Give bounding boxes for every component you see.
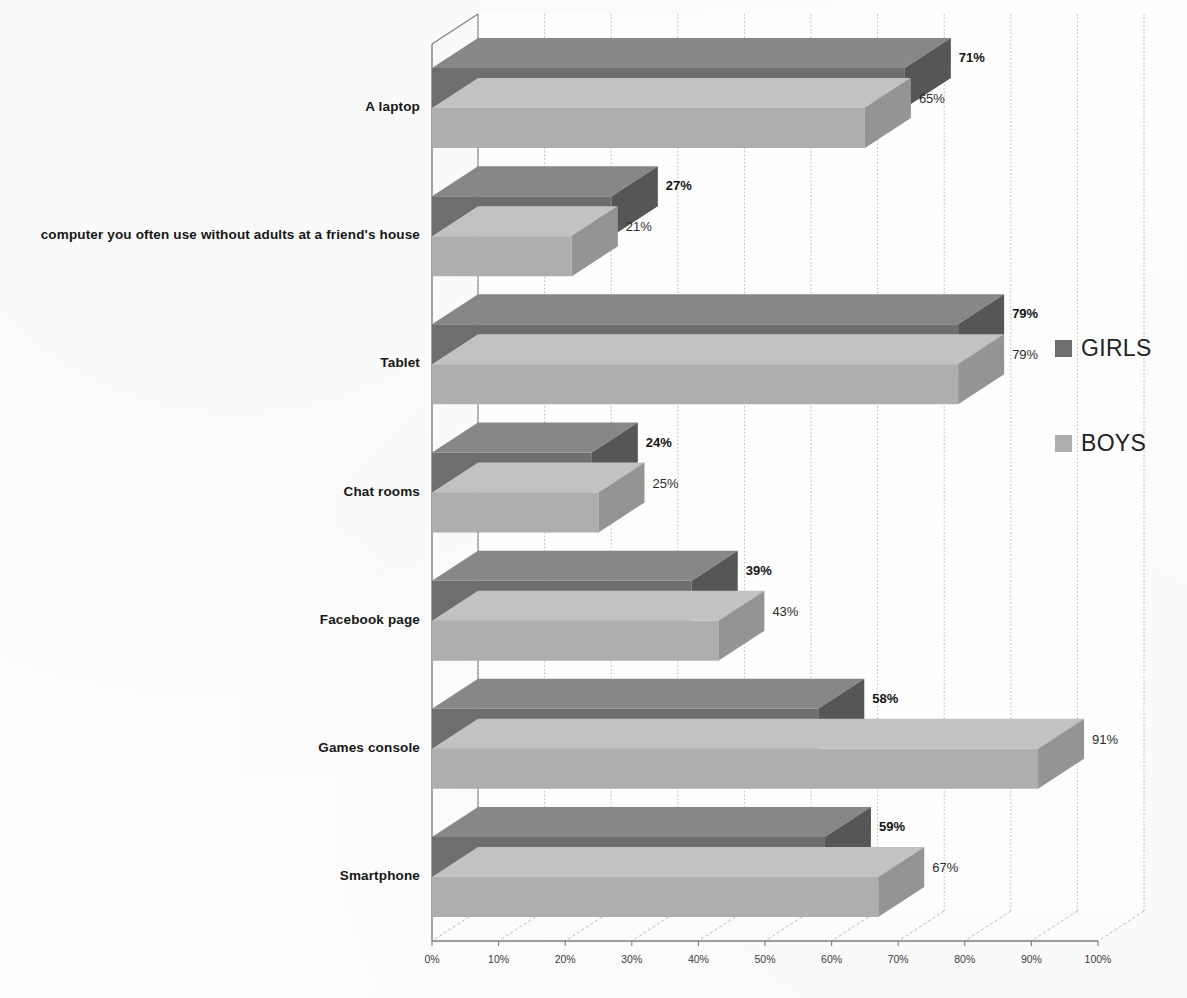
value-label-boys: 43% bbox=[772, 604, 798, 619]
value-label-girls: 79% bbox=[1012, 306, 1038, 321]
legend-label: BOYS bbox=[1081, 430, 1146, 457]
value-label-boys: 25% bbox=[653, 476, 679, 491]
category-label: Games console bbox=[318, 740, 420, 755]
bar-boys-5-front bbox=[432, 749, 1038, 789]
legend-swatch-icon bbox=[1055, 435, 1072, 452]
bar-boys-6-top bbox=[432, 847, 924, 877]
bar-girls-5-top bbox=[432, 679, 864, 709]
bar-girls-0-top bbox=[432, 38, 951, 68]
value-label-girls: 58% bbox=[872, 691, 898, 706]
category-label: Smartphone bbox=[340, 868, 420, 883]
x-tick-label: 10% bbox=[469, 953, 529, 965]
category-label: Tablet bbox=[380, 355, 420, 370]
value-label-boys: 21% bbox=[626, 219, 652, 234]
x-tick-label: 60% bbox=[802, 953, 862, 965]
bar-boys-2-top bbox=[432, 334, 1004, 364]
x-tick-label: 100% bbox=[1068, 953, 1128, 965]
bar-boys-3-front bbox=[432, 493, 599, 533]
bar-girls-2-top bbox=[432, 294, 1004, 324]
bar-boys-0-front bbox=[432, 108, 865, 148]
bar-boys-6-front bbox=[432, 877, 878, 917]
bar-boys-4-front bbox=[432, 621, 718, 661]
bar-girls-6-top bbox=[432, 807, 871, 837]
x-tick-label: 90% bbox=[1001, 953, 1061, 965]
legend-item-boys[interactable]: BOYS bbox=[1055, 430, 1146, 457]
value-label-girls: 27% bbox=[666, 178, 692, 193]
x-tick-label: 30% bbox=[602, 953, 662, 965]
category-label: Facebook page bbox=[320, 612, 420, 627]
x-tick-label: 80% bbox=[935, 953, 995, 965]
x-tick-label: 0% bbox=[402, 953, 462, 965]
value-label-girls: 39% bbox=[746, 563, 772, 578]
x-tick-label: 20% bbox=[535, 953, 595, 965]
category-label: A laptop bbox=[365, 99, 420, 114]
legend-swatch-icon bbox=[1055, 340, 1072, 357]
x-tick-label: 40% bbox=[668, 953, 728, 965]
value-label-girls: 24% bbox=[646, 435, 672, 450]
x-tick-label: 70% bbox=[868, 953, 928, 965]
value-label-boys: 79% bbox=[1012, 347, 1038, 362]
legend-label: GIRLS bbox=[1081, 335, 1152, 362]
category-label: computer you often use without adults at… bbox=[41, 227, 420, 242]
category-label: Chat rooms bbox=[343, 484, 420, 499]
bar-girls-4-top bbox=[432, 551, 738, 581]
value-label-boys: 91% bbox=[1092, 732, 1118, 747]
bar-chart-3d bbox=[0, 0, 1187, 998]
y-axis-top-connector bbox=[432, 14, 478, 44]
bar-boys-5-top bbox=[432, 719, 1084, 749]
bar-boys-2-front bbox=[432, 364, 958, 404]
bar-boys-4-top bbox=[432, 591, 764, 621]
value-label-boys: 67% bbox=[932, 860, 958, 875]
value-label-girls: 71% bbox=[959, 50, 985, 65]
legend-item-girls[interactable]: GIRLS bbox=[1055, 335, 1152, 362]
value-label-girls: 59% bbox=[879, 819, 905, 834]
x-tick-label: 50% bbox=[735, 953, 795, 965]
bar-boys-0-top bbox=[432, 78, 911, 108]
value-label-boys: 65% bbox=[919, 91, 945, 106]
bar-boys-1-front bbox=[432, 236, 572, 276]
